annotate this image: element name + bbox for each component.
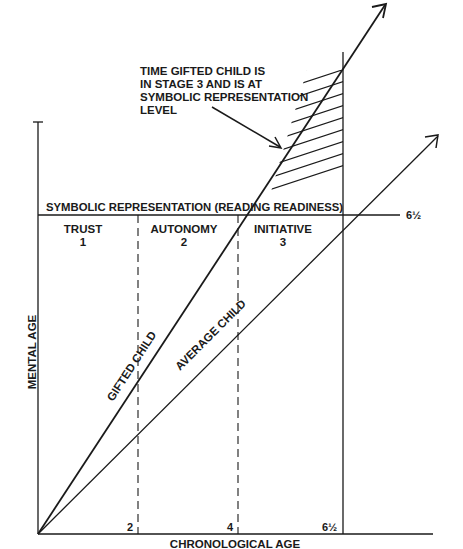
stage-1-number: 1 bbox=[80, 236, 87, 248]
stage-2-number: 2 bbox=[181, 236, 187, 248]
average-child-line bbox=[38, 136, 438, 534]
development-diagram: TIME GIFTED CHILD IS IN STAGE 3 AND IS A… bbox=[0, 0, 463, 549]
stage-3-number: 3 bbox=[280, 236, 286, 248]
hatched-region bbox=[260, 52, 360, 205]
average-arrowhead-icon bbox=[425, 135, 438, 148]
x-tick-6-half: 6½ bbox=[322, 521, 337, 533]
x-tick-2: 2 bbox=[127, 521, 133, 533]
stage-3-name: INITIATIVE bbox=[254, 223, 312, 235]
annotation-text: TIME GIFTED CHILD IS IN STAGE 3 AND IS A… bbox=[140, 65, 311, 116]
average-child-label: AVERAGE CHILD bbox=[173, 297, 248, 372]
threshold-value: 6½ bbox=[406, 209, 421, 221]
threshold-label: SYMBOLIC REPRESENTATION (READING READINE… bbox=[46, 201, 343, 213]
x-tick-4: 4 bbox=[227, 521, 234, 533]
stage-1-name: TRUST bbox=[64, 223, 102, 235]
y-axis-label: MENTAL AGE bbox=[26, 314, 38, 389]
stage-2-name: AUTONOMY bbox=[151, 223, 218, 235]
annotation-pointer bbox=[212, 107, 280, 147]
x-axis-label: CHRONOLOGICAL AGE bbox=[170, 538, 301, 549]
